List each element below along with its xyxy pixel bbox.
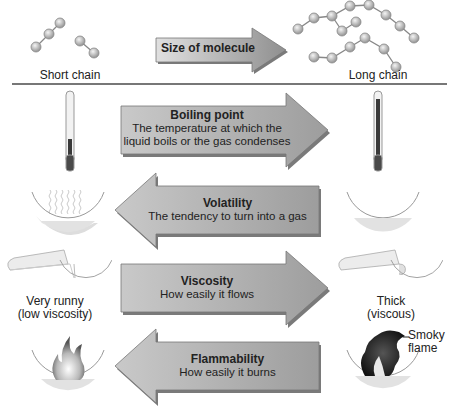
viscous-label: Thick (viscous)	[356, 295, 426, 321]
divider-line	[12, 83, 447, 85]
viscous-label-2: (viscous)	[367, 307, 415, 321]
short-chain-molecules-icon	[25, 10, 105, 60]
clean-flame-icon	[28, 332, 108, 392]
smoky-flame-label: Smoky flame	[408, 329, 448, 355]
viscous-label-1: Thick	[377, 294, 406, 308]
boiling-point-desc-1: The temperature at which the	[132, 122, 282, 134]
runny-pour-icon	[2, 248, 112, 290]
smoky-label-1: Smoky	[408, 328, 445, 342]
evaporating-bowl-icon	[28, 180, 108, 238]
boiling-point-title: Boiling point	[122, 109, 292, 122]
boiling-point-text: Boiling point The temperature at which t…	[122, 109, 292, 148]
flammability-desc: How easily it burns	[179, 366, 276, 378]
volatility-text: Volatility The tendency to turn into a g…	[140, 197, 315, 223]
long-chain-molecules-icon	[290, 0, 440, 75]
thermometer-low-icon	[62, 89, 78, 174]
size-arrow-label: Size of molecule	[158, 42, 258, 55]
runny-label-2: (low viscosity)	[18, 307, 93, 321]
boiling-point-desc-2: liquid boils or the gas condenses	[124, 135, 291, 147]
thermometer-high-icon	[370, 89, 386, 174]
viscous-pour-icon	[333, 248, 443, 290]
flammability-text: Flammability How easily it burns	[140, 353, 315, 379]
volatility-desc: The tendency to turn into a gas	[148, 210, 307, 222]
long-chain-label: Long chain	[338, 69, 418, 82]
viscosity-title: Viscosity	[122, 275, 292, 288]
viscosity-desc: How easily it flows	[160, 288, 254, 300]
stable-bowl-icon	[343, 180, 423, 238]
short-chain-label: Short chain	[30, 69, 110, 82]
runny-label: Very runny (low viscosity)	[10, 295, 100, 321]
volatility-title: Volatility	[140, 197, 315, 210]
flammability-title: Flammability	[140, 353, 315, 366]
viscosity-text: Viscosity How easily it flows	[122, 275, 292, 301]
runny-label-1: Very runny	[26, 294, 83, 308]
smoky-label-2: flame	[408, 341, 437, 355]
